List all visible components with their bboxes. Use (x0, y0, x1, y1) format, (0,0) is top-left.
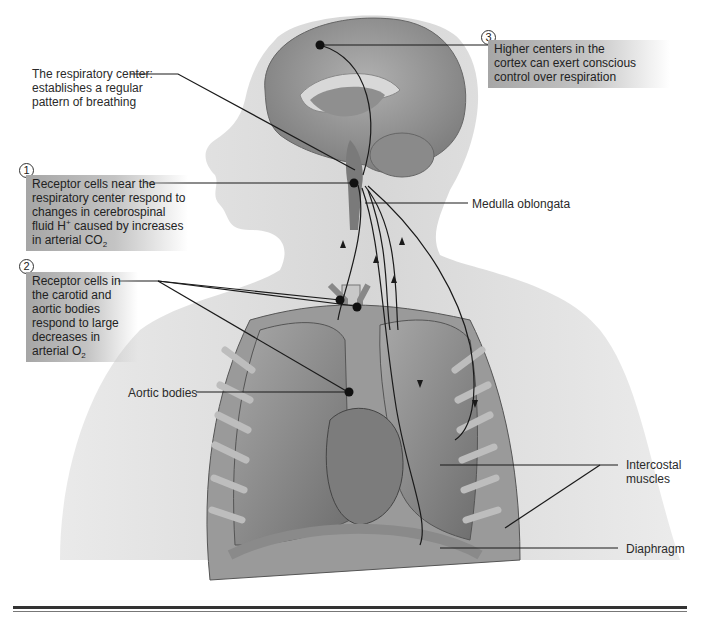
callout-line: fluid H+ caused by increases (32, 219, 182, 233)
callout-line: arterial O2 (32, 344, 132, 358)
text: caused by increases (74, 219, 183, 233)
label-diaphragm: Diaphragm (626, 542, 685, 556)
callout-line: the carotid and (32, 288, 132, 302)
callout-line: control over respiration (494, 70, 664, 84)
callout-line: aortic bodies (32, 302, 132, 316)
subscript: 2 (103, 240, 107, 249)
callout-line: changes in cerebrospinal (32, 205, 182, 219)
label-intercostal-muscles: Intercostal muscles (626, 458, 681, 486)
subscript: 2 (81, 351, 85, 360)
callout-line: Higher centers in the (494, 42, 664, 56)
callout-line: Receptor cells in (32, 274, 132, 288)
callout-line: in arterial CO2 (32, 233, 182, 247)
label-line: pattern of breathing (32, 95, 153, 109)
callout-line: respiratory center respond to (32, 191, 182, 205)
label-aortic-bodies: Aortic bodies (128, 386, 197, 400)
label-line: establishes a regular (32, 81, 153, 95)
label-respiratory-center: The respiratory center: establishes a re… (32, 67, 153, 109)
callout-line: cortex can exert conscious (494, 56, 664, 70)
text: fluid H (32, 219, 66, 233)
label-medulla-oblongata: Medulla oblongata (472, 197, 570, 211)
callout-receptor-carotid-aortic: Receptor cells in the carotid and aortic… (26, 272, 138, 362)
callout-line: respond to large (32, 316, 132, 330)
bottom-rule-thick (13, 606, 687, 609)
callout-line: decreases in (32, 330, 132, 344)
callout-line: Receptor cells near the (32, 177, 182, 191)
callout-receptor-csf: Receptor cells near the respiratory cent… (26, 175, 188, 251)
callout-higher-centers: Higher centers in the cortex can exert c… (488, 40, 670, 88)
label-line: muscles (626, 472, 681, 486)
superscript: + (66, 218, 71, 227)
label-line: The respiratory center: (32, 67, 153, 81)
label-line: Intercostal (626, 458, 681, 472)
text: arterial O (32, 344, 81, 358)
bottom-rule-thin (13, 611, 687, 612)
thorax (207, 305, 520, 580)
text: in arterial CO (32, 233, 103, 247)
